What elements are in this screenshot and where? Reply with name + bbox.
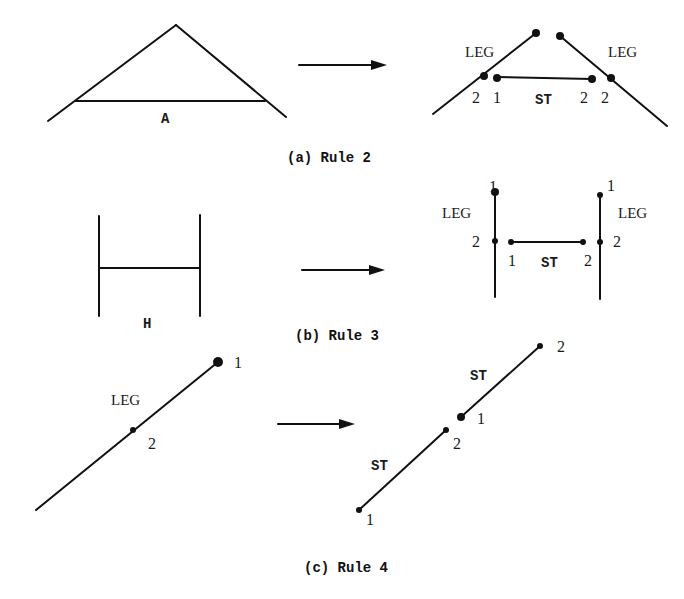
point-label: 2 <box>453 435 461 452</box>
output-split-strokes: 2ST12ST1 <box>356 338 565 528</box>
caption-rule-4: (c) Rule 4 <box>304 560 388 576</box>
endpoint-dot <box>480 72 488 80</box>
stroke-line <box>36 362 218 510</box>
point-label: 1 <box>493 89 501 106</box>
point-label: LEG <box>442 205 471 221</box>
rule-diagram: A LEGLEG21ST22 (a) Rule 2 H 1LEG21ST21LE… <box>0 0 684 599</box>
point-label: LEG <box>608 44 637 60</box>
endpoint-dot <box>492 238 498 244</box>
point-label: LEG <box>465 44 494 60</box>
point-label: 2 <box>472 89 480 106</box>
panel-c-rule-4: 1LEG2 2ST12ST1 (c) Rule 4 <box>36 338 565 576</box>
stroke-line <box>497 77 592 79</box>
endpoint-dot <box>457 413 465 421</box>
panel-b-rule-3: H 1LEG21ST21LEG2 (b) Rule 3 <box>99 177 647 344</box>
endpoint-dot <box>580 239 586 245</box>
endpoint-dot <box>597 192 603 198</box>
point-label: LEG <box>618 205 647 221</box>
point-label: 1 <box>607 177 615 194</box>
input-shape-h <box>99 215 200 316</box>
point-label: 2 <box>557 338 565 355</box>
endpoint-dot <box>532 29 540 37</box>
stroke-line <box>176 25 286 117</box>
panel-a-rule-2: A LEGLEG21ST22 (a) Rule 2 <box>48 25 667 166</box>
point-label: 2 <box>472 233 480 250</box>
endpoint-dot <box>356 507 362 513</box>
endpoint-dot <box>607 74 615 82</box>
point-label: 1 <box>366 511 374 528</box>
point-label: 1 <box>234 354 242 371</box>
input-leg-stroke: 1LEG2 <box>36 354 242 510</box>
arrow-right-icon <box>302 265 385 275</box>
point-label: 2 <box>580 89 588 106</box>
endpoint-dot <box>130 427 136 433</box>
input-shape-a <box>48 25 286 121</box>
point-label: 1 <box>508 252 516 269</box>
endpoint-dot <box>493 74 501 82</box>
point-label: ST <box>535 92 552 108</box>
point-label: ST <box>470 368 487 384</box>
shape-label-h: H <box>143 316 151 332</box>
point-label: ST <box>541 255 558 271</box>
endpoint-dot <box>537 343 543 349</box>
endpoint-dot <box>508 239 514 245</box>
point-label: LEG <box>111 392 140 408</box>
point-label: 2 <box>613 233 621 250</box>
endpoint-dot <box>588 75 596 83</box>
stroke-line <box>48 25 176 121</box>
point-label: 1 <box>489 178 497 195</box>
endpoint-dot <box>443 427 449 433</box>
point-label: 2 <box>601 89 609 106</box>
point-label: 1 <box>477 410 485 427</box>
output-decomposition-a: LEGLEG21ST22 <box>433 29 667 126</box>
shape-label-a: A <box>161 111 170 127</box>
point-label: 2 <box>584 252 592 269</box>
caption-rule-2: (a) Rule 2 <box>287 150 371 166</box>
arrow-right-icon <box>278 419 355 429</box>
arrow-right-icon <box>299 60 387 70</box>
output-decomposition-h: 1LEG21ST21LEG2 <box>442 177 647 299</box>
point-label: ST <box>371 458 388 474</box>
endpoint-dot <box>556 32 564 40</box>
caption-rule-3: (b) Rule 3 <box>295 328 379 344</box>
point-label: 2 <box>148 435 156 452</box>
endpoint-dot <box>213 357 223 367</box>
endpoint-dot <box>597 239 603 245</box>
